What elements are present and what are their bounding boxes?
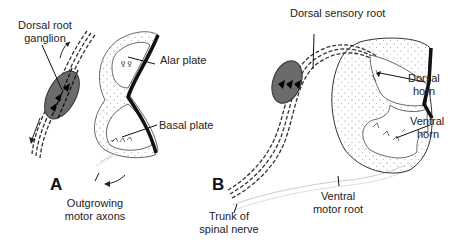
svg-text:ƍ ƍ: ƍ ƍ [121,57,132,67]
label-outgrowing-motor-axons-line2: motor axons [60,210,130,223]
label-dorsal-sensory-root: Dorsal sensory root [290,7,385,20]
label-dorsal-root-ganglion-line1: Dorsal root [14,19,76,32]
label-trunk-of-spinal-nerve: Trunk of spinal nerve [198,210,260,236]
spinal-cord-development-diagram: ƍ ƍ [0,0,460,242]
panel-a-ganglion [29,31,95,158]
panel-b-letter: B [212,175,224,195]
label-ventral-motor-root-line2: motor root [308,203,368,216]
label-ventral-horn: Ventral horn [410,115,444,141]
label-dorsal-root-ganglion: Dorsal root ganglion [14,19,76,45]
label-ventral-horn-line1: Ventral [410,115,444,128]
label-dorsal-horn: Dorsal horn [408,72,440,98]
label-outgrowing-motor-axons-line1: Outgrowing [60,197,130,210]
label-trunk-of-spinal-nerve-line2: spinal nerve [198,223,260,236]
label-ventral-motor-root-line1: Ventral [308,190,368,203]
label-ventral-motor-root: Ventral motor root [308,190,368,216]
label-outgrowing-motor-axons: Outgrowing motor axons [60,197,130,223]
label-ventral-horn-line2: horn [410,128,444,141]
panel-b-spinal-cord [332,38,432,173]
label-basal-plate: Basal plate [159,119,213,132]
label-alar-plate: Alar plate [160,54,206,67]
label-dorsal-horn-line1: Dorsal [408,72,440,85]
panel-a-neural-tube: ƍ ƍ [94,32,158,187]
label-dorsal-root-ganglion-line2: ganglion [14,32,76,45]
label-dorsal-horn-line2: horn [408,85,440,98]
label-trunk-of-spinal-nerve-line1: Trunk of [198,210,260,223]
panel-a-letter: A [50,175,62,195]
